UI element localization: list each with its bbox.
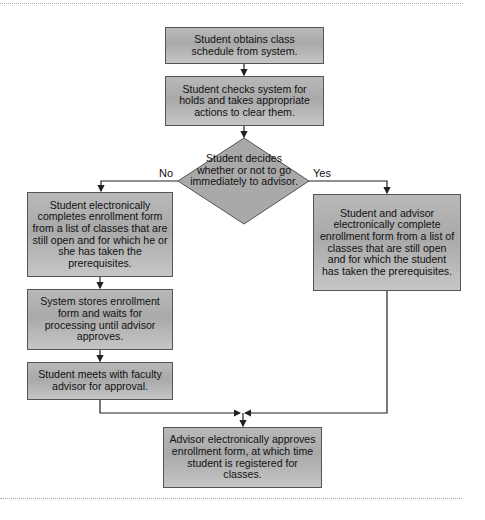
- step-text: Student and advisor electronically compl…: [318, 208, 456, 278]
- flowchart-canvas: Student obtains class schedule from syst…: [0, 0, 485, 520]
- step-advisor-approves: Advisor electronically approves enrollme…: [163, 427, 322, 488]
- decision-text: Student decides whether or not to go imm…: [186, 153, 302, 188]
- step-text: System stores enrollment form and waits …: [32, 296, 168, 342]
- branch-label-no: No: [159, 167, 173, 179]
- step-yes-branch-enroll: Student and advisor electronically compl…: [313, 194, 461, 291]
- step-text: Student meets with faculty advisor for a…: [32, 369, 168, 392]
- step-obtain-schedule: Student obtains class schedule from syst…: [165, 27, 324, 64]
- step-text: Student electronically completes enrollm…: [32, 200, 168, 270]
- step-check-holds: Student checks system for holds and take…: [165, 76, 324, 126]
- step-text: Student checks system for holds and take…: [170, 84, 319, 119]
- step-text: Student obtains class schedule from syst…: [170, 34, 319, 57]
- step-no-branch-enroll: Student electronically completes enrollm…: [27, 192, 173, 277]
- branch-label-yes: Yes: [313, 167, 331, 179]
- step-system-stores: System stores enrollment form and waits …: [27, 289, 173, 350]
- step-meet-advisor: Student meets with faculty advisor for a…: [27, 362, 173, 400]
- step-text: Advisor electronically approves enrollme…: [168, 434, 317, 480]
